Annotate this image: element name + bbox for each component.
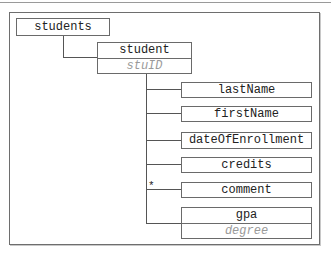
connector-firstname xyxy=(146,113,181,114)
node-credits-label: credits xyxy=(182,158,311,172)
node-students: students xyxy=(16,18,110,36)
node-lastname-label: lastName xyxy=(182,83,311,97)
node-student-label: student xyxy=(98,43,191,58)
node-comment-label: comment xyxy=(182,183,311,197)
connector-lastname xyxy=(146,89,181,90)
connector-students-vertical xyxy=(63,36,64,58)
node-student-attribute: stuID xyxy=(98,58,191,74)
node-gpa-label: gpa xyxy=(182,208,311,223)
connector-credits xyxy=(146,164,181,165)
node-firstname-label: firstName xyxy=(182,107,311,121)
node-comment: comment xyxy=(181,182,312,198)
node-dateofenrollment: dateOfEnrollment xyxy=(181,132,312,149)
node-dateofenrollment-label: dateOfEnrollment xyxy=(182,133,311,148)
node-student: student stuID xyxy=(97,42,192,74)
node-credits: credits xyxy=(181,157,312,173)
node-gpa: gpa degree xyxy=(181,207,312,239)
page-top-rule xyxy=(0,2,331,3)
node-gpa-attribute: degree xyxy=(182,223,311,239)
node-firstname: firstName xyxy=(181,106,312,122)
node-lastname: lastName xyxy=(181,82,312,98)
connector-gpa xyxy=(146,223,181,224)
connector-students-horizontal xyxy=(63,57,97,58)
node-students-label: students xyxy=(17,19,109,35)
connector-dateofenrollment xyxy=(146,140,181,141)
comment-multiplicity: * xyxy=(148,181,155,191)
connector-student-trunk xyxy=(146,74,147,224)
